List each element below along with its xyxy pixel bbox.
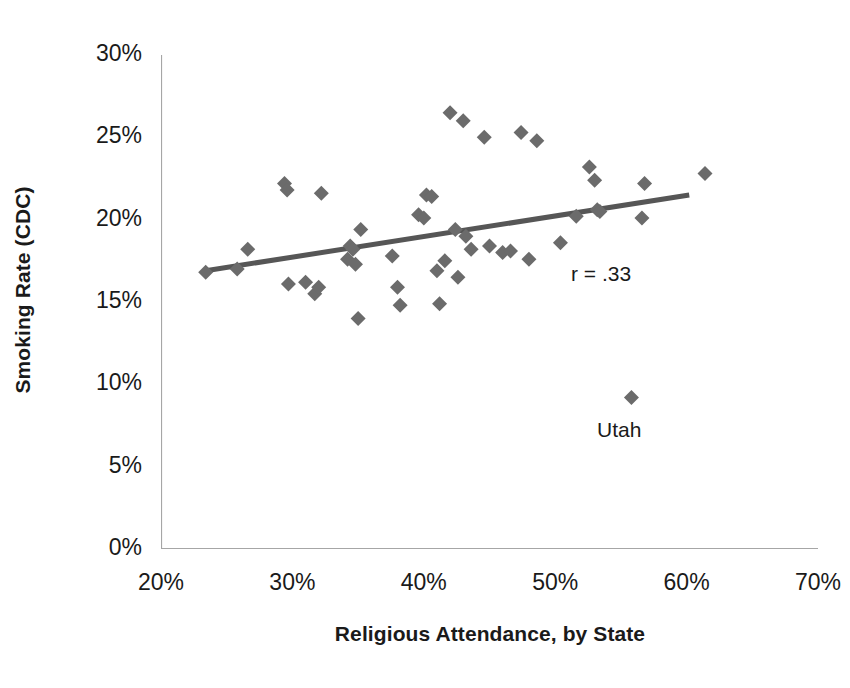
scatter-point bbox=[314, 186, 329, 201]
scatter-point bbox=[482, 239, 497, 254]
y-axis-tick-label: 30% bbox=[50, 40, 142, 67]
scatter-point bbox=[634, 211, 649, 226]
y-axis-title: Smoking Rate (CDC) bbox=[8, 10, 38, 570]
axis-lines bbox=[161, 55, 818, 549]
scatter-chart-figure: Smoking Rate (CDC) Religious Attendance,… bbox=[0, 0, 850, 688]
scatter-point bbox=[198, 265, 213, 280]
scatter-point bbox=[464, 242, 479, 257]
x-axis-title: Religious Attendance, by State bbox=[140, 622, 840, 646]
x-axis-tick-label: 70% bbox=[773, 569, 850, 596]
scatter-point bbox=[240, 242, 255, 257]
scatter-point bbox=[529, 133, 544, 148]
scatter-point bbox=[582, 159, 597, 174]
x-axis-tick-label: 30% bbox=[247, 569, 337, 596]
x-axis-tick-label: 20% bbox=[116, 569, 206, 596]
scatter-point bbox=[385, 248, 400, 263]
y-axis-tick-label: 10% bbox=[50, 369, 142, 396]
scatter-point bbox=[450, 270, 465, 285]
scatter-point bbox=[637, 176, 652, 191]
utah-point-label: Utah bbox=[597, 418, 641, 442]
scatter-point bbox=[521, 252, 536, 267]
scatter-point bbox=[514, 125, 529, 140]
scatter-point bbox=[443, 105, 458, 120]
scatter-point bbox=[281, 276, 296, 291]
y-axis-tick-label: 25% bbox=[50, 122, 142, 149]
axis-tick-marks bbox=[161, 56, 818, 550]
x-axis-tick-label: 60% bbox=[642, 569, 732, 596]
data-points bbox=[198, 105, 712, 405]
x-axis-tick-label: 50% bbox=[510, 569, 600, 596]
scatter-point bbox=[390, 280, 405, 295]
scatter-point bbox=[432, 296, 447, 311]
y-axis-tick-label: 5% bbox=[50, 452, 142, 479]
y-axis-tick-label: 20% bbox=[50, 205, 142, 232]
scatter-point bbox=[477, 130, 492, 145]
scatter-point bbox=[456, 113, 471, 128]
scatter-point bbox=[393, 298, 408, 313]
scatter-point bbox=[624, 390, 639, 405]
scatter-point bbox=[351, 311, 366, 326]
plot-area bbox=[161, 55, 818, 549]
scatter-point bbox=[697, 166, 712, 181]
scatter-point bbox=[587, 173, 602, 188]
scatter-point bbox=[353, 222, 368, 237]
scatter-plot-canvas bbox=[161, 55, 818, 549]
x-axis-tick-label: 40% bbox=[379, 569, 469, 596]
scatter-point bbox=[298, 275, 313, 290]
y-axis-tick-label: 15% bbox=[50, 287, 142, 314]
y-axis-tick-label: 0% bbox=[50, 534, 142, 561]
correlation-annotation: r = .33 bbox=[571, 262, 631, 286]
scatter-point bbox=[553, 235, 568, 250]
